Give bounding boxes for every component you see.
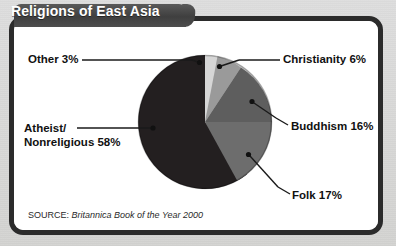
pie-chart: Other 3% Christianity 6% Buddhism 16% Fo… bbox=[14, 21, 378, 230]
leader-line-folk-hook bbox=[250, 156, 278, 187]
slice-label-atheist-line2: Nonreligious 58% bbox=[24, 136, 121, 150]
slice-label-atheist: Atheist/ Nonreligious 58% bbox=[24, 122, 121, 149]
source-label: SOURCE: bbox=[28, 210, 69, 220]
source-note: SOURCE: Britannica Book of the Year 2000 bbox=[28, 210, 203, 220]
chart-frame: Other 3% Christianity 6% Buddhism 16% Fo… bbox=[9, 16, 383, 235]
leader-dot-folk bbox=[246, 152, 251, 157]
slice-label-atheist-line1: Atheist/ bbox=[24, 122, 121, 136]
page-title: Religions of East Asia bbox=[11, 3, 160, 19]
leader-dot-christianity bbox=[217, 64, 222, 69]
leader-dot-buddhism bbox=[249, 99, 254, 104]
leader-dot-atheist bbox=[150, 125, 155, 130]
source-text: Britannica Book of the Year 2000 bbox=[72, 210, 203, 220]
infographic-root: Religions of East Asia bbox=[0, 0, 396, 246]
slice-label-buddhism: Buddhism 16% bbox=[291, 120, 373, 134]
leader-line-folk bbox=[278, 187, 290, 194]
chart-frame-inner: Other 3% Christianity 6% Buddhism 16% Fo… bbox=[14, 21, 378, 230]
leader-dot-other bbox=[197, 60, 202, 65]
slice-label-other: Other 3% bbox=[28, 53, 79, 67]
leader-line-buddhism bbox=[276, 118, 288, 125]
slice-label-christianity: Christianity 6% bbox=[283, 53, 366, 67]
slice-label-folk: Folk 17% bbox=[292, 189, 342, 203]
